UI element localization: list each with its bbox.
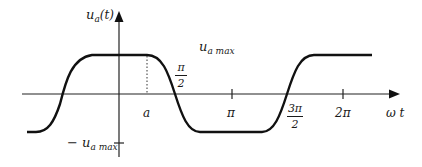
min-label: − ua max [67,136,118,149]
tick-label-three-pi-half: 3π 2 [285,103,305,130]
fraction-bar [175,75,187,76]
min-label-prefix: − [67,135,78,150]
y-axis-arrow-icon [115,11,124,22]
min-label-sub: a max [90,142,117,152]
y-axis-label: ua(t) [86,8,114,21]
pi-half-numerator: π [173,62,189,73]
three-pi-half-denominator: 2 [285,119,305,130]
x-axis-label: ω t [386,107,404,119]
tick-label-a: a [143,107,150,119]
max-label: ua max [199,40,235,53]
tick-label-pi: π [227,107,235,119]
tick-label-2pi: 2π [335,107,351,119]
three-pi-half-numerator: 3π [285,103,305,114]
waveform-diagram [0,0,422,167]
x-axis-arrow-icon [389,90,400,99]
y-axis-label-arg: (t) [100,8,114,22]
y-axis-label-sub: a [94,14,99,24]
fraction-bar [287,116,303,117]
max-label-sub: a max [207,46,234,56]
pi-half-denominator: 2 [173,78,189,89]
tick-label-pi-half: π 2 [173,62,189,89]
